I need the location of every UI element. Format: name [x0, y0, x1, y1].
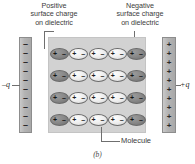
plate-charge-symbol: +	[167, 77, 172, 84]
molecule-negative-pole: –	[81, 94, 85, 101]
plate-charge-symbol: +	[167, 113, 172, 120]
molecule: +–	[69, 70, 88, 82]
molecule: +–	[108, 70, 127, 82]
molecule: +–	[108, 92, 127, 104]
molecule: +–	[89, 70, 108, 82]
plate-charge-symbol: –	[23, 86, 28, 93]
plate-charge-symbol: +	[167, 104, 172, 111]
plate-charge-symbol: –	[23, 113, 28, 120]
plate-charge-symbol: +	[167, 86, 172, 93]
molecule: +–	[89, 114, 108, 126]
molecule-negative-pole: –	[81, 116, 85, 123]
positive-label-leader-line	[44, 31, 45, 49]
molecule-positive-pole: +	[111, 116, 115, 123]
molecule-negative-pole: –	[139, 50, 143, 57]
plate-charge-symbol: +	[167, 122, 172, 129]
molecule: +–	[50, 48, 69, 60]
dielectric-slab: +–+–+–+–+–+–+–+–+–+–+–+–+–+–+–+–+–+–+–+–	[48, 37, 146, 133]
molecule-negative-pole: –	[62, 94, 66, 101]
plate-charge-symbol: –	[23, 95, 28, 102]
molecule: +–	[69, 92, 88, 104]
molecule: +–	[50, 70, 69, 82]
molecule-negative-pole: –	[120, 50, 124, 57]
positive-surface-charge-label: Positive surface charge on dielectric	[14, 2, 94, 27]
plate-charge-symbol: –	[23, 59, 28, 66]
plate-charge-symbol: +	[167, 59, 172, 66]
molecule-negative-pole: –	[101, 116, 105, 123]
plate-charge-symbol: –	[23, 122, 28, 129]
plate-charge-symbol: –	[23, 68, 28, 75]
molecule-negative-pole: –	[101, 72, 105, 79]
molecule-positive-pole: +	[72, 50, 76, 57]
molecule: +–	[127, 70, 146, 82]
molecule-positive-pole: +	[53, 50, 57, 57]
molecule-positive-pole: +	[53, 94, 57, 101]
molecule-negative-pole: –	[62, 72, 66, 79]
molecule-positive-pole: +	[72, 72, 76, 79]
molecule-negative-pole: –	[62, 50, 66, 57]
molecule-negative-pole: –	[120, 72, 124, 79]
plate-charge-symbol: +	[167, 50, 172, 57]
panel-letter: (b)	[0, 150, 195, 159]
left-plate-charge-label: –q	[2, 80, 10, 89]
molecule-negative-pole: –	[120, 94, 124, 101]
molecule-negative-pole: –	[81, 50, 85, 57]
molecule-positive-pole: +	[111, 50, 115, 57]
molecule-negative-pole: –	[81, 72, 85, 79]
molecule-positive-pole: +	[53, 116, 57, 123]
molecule-positive-pole: +	[92, 116, 96, 123]
dielectric-capacitor-figure: Positive surface charge on dielectric Ne…	[0, 0, 195, 164]
capacitor-plate-right: ++++++++++	[162, 37, 176, 133]
left-charge-leader-line	[12, 85, 20, 86]
molecule-negative-pole: –	[139, 94, 143, 101]
molecule-negative-pole: –	[101, 50, 105, 57]
plate-charge-symbol: +	[167, 68, 172, 75]
molecule-positive-pole: +	[130, 50, 134, 57]
molecule: +–	[108, 114, 127, 126]
molecule: +–	[127, 48, 146, 60]
capacitor-plate-left: ––––––––––	[19, 37, 32, 133]
molecule-positive-pole: +	[92, 94, 96, 101]
molecule-positive-pole: +	[130, 72, 134, 79]
molecule: +–	[127, 114, 146, 126]
plate-charge-symbol: +	[167, 95, 172, 102]
plate-charge-symbol: –	[23, 77, 28, 84]
molecule: +–	[50, 114, 69, 126]
molecule-leader-line-vertical	[101, 127, 102, 141]
molecule-negative-pole: –	[120, 116, 124, 123]
molecule-positive-pole: +	[111, 72, 115, 79]
molecule-positive-pole: +	[92, 50, 96, 57]
molecule-leader-line-horizontal	[101, 141, 120, 142]
positive-label-leader-tick	[44, 31, 54, 32]
molecule: +–	[69, 114, 88, 126]
plate-charge-symbol: –	[23, 50, 28, 57]
molecule: +–	[127, 92, 146, 104]
molecule-positive-pole: +	[130, 116, 134, 123]
molecule-row: +–+–+–+–+–	[49, 113, 147, 126]
molecule-negative-pole: –	[101, 94, 105, 101]
molecule-negative-pole: –	[139, 72, 143, 79]
molecule-positive-pole: +	[72, 116, 76, 123]
molecule: +–	[108, 48, 127, 60]
molecule: +–	[89, 92, 108, 104]
molecule: +–	[50, 92, 69, 104]
molecule-label: Molecule	[121, 136, 151, 145]
molecule-positive-pole: +	[53, 72, 57, 79]
molecule: +–	[69, 48, 88, 60]
plate-charge-symbol: +	[167, 41, 172, 48]
plate-charge-symbol: –	[23, 41, 28, 48]
negative-surface-charge-label: Negative surface charge on dielectric	[100, 2, 180, 27]
molecule-positive-pole: +	[130, 94, 134, 101]
right-plate-charge-label: +q	[180, 80, 189, 89]
molecule-positive-pole: +	[72, 94, 76, 101]
molecule-positive-pole: +	[92, 72, 96, 79]
molecule-negative-pole: –	[139, 116, 143, 123]
molecule-positive-pole: +	[111, 94, 115, 101]
molecule-negative-pole: –	[62, 116, 66, 123]
molecule: +–	[89, 48, 108, 60]
molecule-row: +–+–+–+–+–	[49, 69, 147, 82]
molecule-row: +–+–+–+–+–	[49, 91, 147, 104]
plate-charge-symbol: –	[23, 104, 28, 111]
molecule-row: +–+–+–+–+–	[49, 47, 147, 60]
